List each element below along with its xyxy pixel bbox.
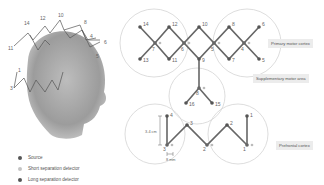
source-dot-icon (18, 156, 22, 160)
svg-text:6: 6 (181, 46, 184, 52)
svg-text:3: 3 (10, 85, 13, 91)
svg-text:6: 6 (262, 21, 265, 27)
svg-text:4: 4 (170, 112, 173, 118)
svg-text:2: 2 (230, 120, 233, 126)
prefrontal-probe-lines (167, 116, 247, 145)
svg-text:14: 14 (24, 20, 30, 26)
svg-text:5: 5 (96, 53, 99, 59)
svg-text:4: 4 (241, 46, 244, 52)
vertical-distance-label: 3-4 cm (145, 130, 157, 134)
svg-text:8: 8 (84, 19, 87, 25)
motor-labels: 14 12 10 8 6 13 11 9 7 5 7 6 5 4 (143, 21, 265, 63)
region-tag-sma: Supplementary motor area (253, 74, 309, 83)
svg-text:6: 6 (104, 39, 107, 45)
svg-text:12: 12 (172, 21, 178, 27)
svg-text:10: 10 (202, 21, 208, 27)
svg-text:5: 5 (262, 57, 265, 63)
svg-text:7: 7 (232, 57, 235, 63)
motor-nodes (138, 25, 261, 61)
svg-text:14: 14 (143, 21, 149, 27)
svg-text:4: 4 (90, 33, 93, 39)
svg-text:12: 12 (40, 15, 46, 21)
svg-text:5: 5 (211, 46, 214, 52)
svg-text:3: 3 (163, 146, 166, 152)
sma-labels: 16 15 8 (189, 90, 221, 107)
svg-text:3: 3 (190, 120, 193, 126)
long-detector-dot-icon (18, 178, 22, 182)
legend-item-long: Long separation detector (18, 174, 80, 185)
svg-text:8: 8 (196, 90, 199, 96)
legend-item-short: Short separation detector (18, 163, 80, 174)
short-detector-dot-icon (18, 167, 22, 171)
svg-text:1: 1 (250, 112, 253, 118)
legend-item-source: Source (18, 152, 80, 163)
measurement-vertical (158, 116, 162, 145)
svg-text:1: 1 (18, 67, 21, 73)
svg-text:16: 16 (189, 101, 195, 107)
svg-text:7: 7 (152, 46, 155, 52)
measurement-horizontal (167, 152, 173, 156)
region-tag-primary-motor: Primary motor cortex (268, 39, 313, 48)
svg-text:10: 10 (58, 12, 64, 18)
svg-text:1: 1 (243, 146, 246, 152)
region-tag-prefrontal: Prefrontal cortex (276, 141, 313, 150)
head-illustration (27, 31, 106, 138)
svg-text:2: 2 (203, 146, 206, 152)
svg-text:11: 11 (8, 45, 13, 51)
svg-text:9: 9 (202, 57, 205, 63)
legend: Source Short separation detector Long se… (18, 152, 80, 185)
svg-text:13: 13 (143, 57, 149, 63)
horizontal-distance-label: 8 mm (166, 158, 176, 162)
svg-text:8: 8 (232, 21, 235, 27)
svg-text:15: 15 (215, 101, 221, 107)
svg-text:11: 11 (172, 57, 177, 63)
prefrontal-left-circle (125, 104, 185, 164)
sma-circle (169, 68, 225, 124)
